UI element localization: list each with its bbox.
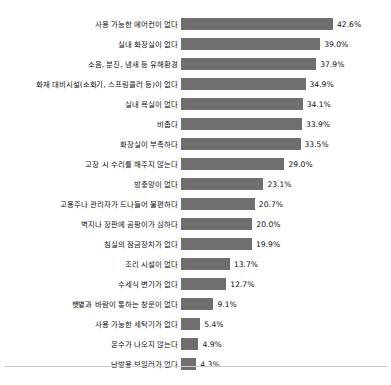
bar-category-label: 소음, 분진, 냄새 등 유해환경 — [0, 60, 181, 69]
bar-value-label: 29.0% — [288, 160, 312, 169]
bar-category-label: 고장 시 수리를 해주지 않는다 — [0, 160, 181, 169]
horizontal-bar-chart: 사용 가능한 에어컨이 없다42.6%실내 화장실이 없다39.0%소음, 분진… — [0, 0, 391, 385]
bar — [181, 298, 213, 310]
bar-row: 조리 시설이 없다13.7% — [0, 254, 391, 274]
bar-track: 5.4% — [181, 314, 391, 334]
bar-row: 수세식 변기가 없다12.7% — [0, 274, 391, 294]
bar — [181, 178, 263, 190]
bar-value-label: 4.9% — [202, 340, 221, 349]
bar-track: 34.9% — [181, 74, 391, 94]
bar-category-label: 고용주나 관리자가 드나들어 불편하다 — [0, 200, 181, 209]
bar-category-label: 실내 욕실이 없다 — [0, 100, 181, 109]
bar-row: 실내 욕실이 없다34.1% — [0, 94, 391, 114]
bar — [181, 358, 196, 370]
bar-row: 고장 시 수리를 해주지 않는다29.0% — [0, 154, 391, 174]
bar-value-label: 33.5% — [305, 140, 329, 149]
bar-track: 33.9% — [181, 114, 391, 134]
bar-value-label: 39.0% — [324, 40, 348, 49]
bar — [181, 198, 255, 210]
bar-category-label: 화재 대비시설(소화기, 스프링클러 등)이 없다 — [0, 80, 181, 89]
bar-category-label: 난방용 보일러가 없다 — [0, 360, 181, 369]
bar — [181, 238, 252, 250]
bar-track: 4.3% — [181, 354, 391, 374]
bar-track: 20.0% — [181, 214, 391, 234]
bar-track: 9.1% — [181, 294, 391, 314]
bar — [181, 258, 230, 270]
bar-category-label: 실내 화장실이 없다 — [0, 40, 181, 49]
bar-track: 23.1% — [181, 174, 391, 194]
bar-track: 42.6% — [181, 14, 391, 34]
bar — [181, 58, 316, 70]
bar-row: 햇볕과 바람이 통하는 창문이 없다9.1% — [0, 294, 391, 314]
bar-value-label: 13.7% — [234, 260, 258, 269]
chart-plot-area: 사용 가능한 에어컨이 없다42.6%실내 화장실이 없다39.0%소음, 분진… — [0, 14, 391, 374]
bar-value-label: 9.1% — [217, 300, 236, 309]
bar-track: 4.9% — [181, 334, 391, 354]
bar — [181, 78, 306, 90]
bar-row: 화장실이 부족하다33.5% — [0, 134, 391, 154]
bar-row: 사용 가능한 에어컨이 없다42.6% — [0, 14, 391, 34]
bar-row: 화재 대비시설(소화기, 스프링클러 등)이 없다34.9% — [0, 74, 391, 94]
bar-category-label: 온수가 나오지 않는다 — [0, 340, 181, 349]
bar-category-label: 조리 시설이 없다 — [0, 260, 181, 269]
bar-value-label: 34.1% — [307, 100, 331, 109]
bar-value-label: 33.9% — [306, 120, 330, 129]
bar-category-label: 비좁다 — [0, 120, 181, 129]
bar-category-label: 화장실이 부족하다 — [0, 140, 181, 149]
bar-row: 방충망이 없다23.1% — [0, 174, 391, 194]
bar-value-label: 19.9% — [256, 240, 280, 249]
bar-track: 37.9% — [181, 54, 391, 74]
bar — [181, 158, 284, 170]
bar-value-label: 20.7% — [259, 200, 283, 209]
bar-category-label: 벽지나 장판에 곰팡이가 심하다 — [0, 220, 181, 229]
bar — [181, 278, 226, 290]
bar-value-label: 37.9% — [320, 60, 344, 69]
bar-track: 33.5% — [181, 134, 391, 154]
bar-value-label: 23.1% — [267, 180, 291, 189]
bar — [181, 98, 303, 110]
bar-track: 12.7% — [181, 274, 391, 294]
bar-track: 34.1% — [181, 94, 391, 114]
bar-value-label: 5.4% — [204, 320, 223, 329]
bar-value-label: 12.7% — [230, 280, 254, 289]
bar-value-label: 42.6% — [337, 20, 361, 29]
bar-category-label: 수세식 변기가 없다 — [0, 280, 181, 289]
bar — [181, 18, 333, 30]
footer-divider — [4, 366, 387, 367]
bar-row: 난방용 보일러가 없다4.3% — [0, 354, 391, 374]
bar-row: 벽지나 장판에 곰팡이가 심하다20.0% — [0, 214, 391, 234]
bar-category-label: 침실의 잠금장치가 없다 — [0, 240, 181, 249]
bar-row: 고용주나 관리자가 드나들어 불편하다20.7% — [0, 194, 391, 214]
bar — [181, 318, 200, 330]
bar — [181, 118, 302, 130]
bar-row: 소음, 분진, 냄새 등 유해환경37.9% — [0, 54, 391, 74]
bar-track: 13.7% — [181, 254, 391, 274]
bar — [181, 38, 320, 50]
bar-row: 사용 가능한 세탁기가 없다5.4% — [0, 314, 391, 334]
bar-row: 비좁다33.9% — [0, 114, 391, 134]
bar-category-label: 방충망이 없다 — [0, 180, 181, 189]
bar — [181, 338, 198, 350]
bar-category-label: 사용 가능한 에어컨이 없다 — [0, 20, 181, 29]
bar-track: 29.0% — [181, 154, 391, 174]
bar-track: 19.9% — [181, 234, 391, 254]
bar-value-label: 34.9% — [310, 80, 334, 89]
bar-row: 침실의 잠금장치가 없다19.9% — [0, 234, 391, 254]
bar-track: 20.7% — [181, 194, 391, 214]
bar-category-label: 사용 가능한 세탁기가 없다 — [0, 320, 181, 329]
bar-row: 온수가 나오지 않는다4.9% — [0, 334, 391, 354]
bar-track: 39.0% — [181, 34, 391, 54]
bar-row: 실내 화장실이 없다39.0% — [0, 34, 391, 54]
bar-category-label: 햇볕과 바람이 통하는 창문이 없다 — [0, 300, 181, 309]
bar-value-label: 20.0% — [256, 220, 280, 229]
bar-value-label: 4.3% — [200, 360, 219, 369]
bar — [181, 218, 252, 230]
bar — [181, 138, 301, 150]
